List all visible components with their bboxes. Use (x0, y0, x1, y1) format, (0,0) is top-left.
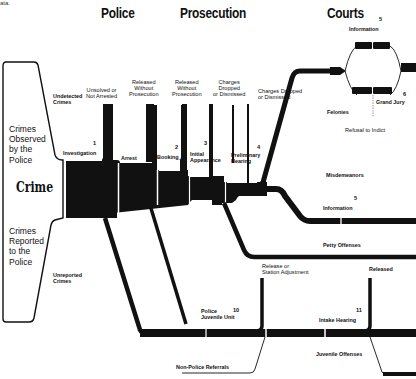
courts-exit (401, 63, 416, 72)
info-top-block-a (355, 42, 372, 49)
block-initial-appearance (191, 176, 224, 200)
court-information-top: Information (349, 27, 379, 33)
exit-charges-2 (247, 104, 249, 184)
juvenile-non-police-referrals: Non-Police Referrals (176, 365, 229, 371)
juvenile-bar (140, 329, 416, 337)
label-exit-charges-1: Charges Dropped or Dismissed (213, 80, 245, 98)
stage-number-2: 2 (175, 145, 178, 151)
block-arrest (120, 162, 156, 202)
stage-arrest: Arrest (121, 156, 137, 162)
court-number-5-top: 5 (379, 17, 382, 23)
exit-unsolved (103, 104, 113, 160)
court-information-mid: Information (323, 206, 353, 212)
exit-released-2 (182, 104, 187, 170)
juvenile-offenses: Juvenile Offenses (316, 352, 362, 358)
exit-charges-1 (209, 104, 213, 178)
header-police: Police (101, 6, 135, 21)
court-number-5-mid: 5 (354, 196, 357, 202)
court-misdemeanors: Misdemeanors (326, 173, 364, 179)
stage-initial-appearance: Initial Appearance (190, 152, 221, 163)
info-top-block-b (373, 42, 390, 49)
label-exit-unsolved: Unsolved or Not Arrested (86, 88, 117, 100)
court-felonies: Felonies (327, 110, 349, 116)
grand-jury-block-a (352, 87, 372, 94)
block-booking (159, 170, 188, 202)
exit-released-1 (146, 104, 154, 162)
court-grand-jury: Grand Jury (376, 100, 405, 106)
grand-jury-block-b (373, 87, 392, 94)
juvenile-path-b (150, 205, 186, 324)
petty-path (224, 203, 416, 257)
label-crimes-observed: Crimes Observed by the Police (9, 124, 46, 165)
juvenile-number-11: 11 (356, 308, 362, 314)
juvenile-release-adjustment: Release or Station Adjustment (262, 264, 309, 276)
court-petty-offenses: Petty Offenses (323, 243, 361, 249)
header-courts: Courts (327, 6, 364, 21)
court-number-6: 6 (403, 92, 406, 98)
juvenile-released: Released (369, 267, 393, 273)
juvenile-path-a (105, 218, 202, 334)
label-crimes-reported: Crimes Reported to the Police (9, 226, 44, 267)
juvenile-intake-hearing: Intake Hearing (319, 318, 356, 324)
label-crime: Crime (16, 180, 53, 195)
stage-booking: Booking (157, 155, 179, 161)
juvenile-police-unit: Police Juvenile Unit (201, 309, 235, 320)
stage-number-1: 1 (93, 141, 96, 147)
juvenile-number-10: 10 (233, 308, 239, 314)
label-undetected-crimes: Undetected Crimes (53, 94, 82, 105)
label-unreported-crimes: Unreported Crimes (53, 273, 82, 284)
block-investigation (66, 160, 117, 218)
stage-investigation: Investigation (63, 151, 96, 157)
label-exit-released-2: Released Without Prosecution (172, 80, 202, 98)
stage-number-4: 4 (257, 145, 260, 151)
stage-number-3: 3 (204, 141, 207, 147)
cropped-caption: ata. (0, 0, 10, 6)
stage-preliminary-hearing: Preliminary Hearing (231, 153, 260, 164)
label-exit-charges-2: Charges Dropped or Dismissed (258, 89, 302, 101)
header-prosecution: Prosecution (180, 6, 246, 21)
court-refusal-to-indict: Refusal to Indict (345, 128, 385, 134)
label-exit-released-1: Released Without Prosecution (129, 80, 159, 98)
